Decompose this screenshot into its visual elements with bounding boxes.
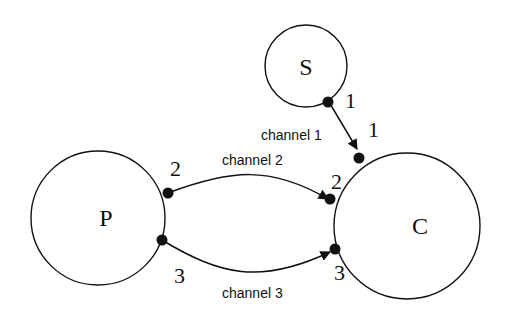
node-c-label: C bbox=[412, 213, 428, 239]
port-s1 bbox=[323, 97, 334, 108]
channel-3-edge bbox=[162, 240, 330, 272]
node-p: P bbox=[31, 151, 165, 285]
port-p2-label: 2 bbox=[170, 156, 181, 181]
process-channel-diagram: S P C 1 1 2 2 3 3 channel 1 channel 2 ch… bbox=[0, 0, 509, 311]
port-c3-label: 3 bbox=[334, 260, 345, 285]
port-c2 bbox=[325, 194, 336, 205]
node-s: S bbox=[265, 25, 347, 107]
channel-2-label: channel 2 bbox=[222, 152, 283, 168]
node-s-label: S bbox=[299, 54, 312, 80]
port-c1 bbox=[354, 153, 365, 164]
port-c3 bbox=[330, 244, 341, 255]
port-s1-label: 1 bbox=[345, 88, 356, 113]
node-c-circle bbox=[334, 153, 480, 299]
channel-3-label: channel 3 bbox=[222, 285, 283, 301]
node-p-circle bbox=[31, 151, 165, 285]
port-c1-label: 1 bbox=[368, 117, 379, 142]
node-c: C bbox=[334, 153, 480, 299]
channel-2-edge bbox=[168, 175, 328, 199]
port-c2-label: 2 bbox=[331, 169, 342, 194]
node-p-label: P bbox=[99, 205, 112, 231]
port-p3 bbox=[157, 235, 168, 246]
channel-1-label: channel 1 bbox=[261, 127, 322, 143]
port-p3-label: 3 bbox=[174, 263, 185, 288]
port-p2 bbox=[163, 188, 174, 199]
